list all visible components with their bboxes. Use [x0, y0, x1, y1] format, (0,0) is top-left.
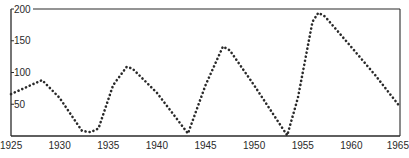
x-tick-label: 1930 [49, 140, 72, 151]
y-axis-ticks: 50100150200 [11, 4, 31, 110]
x-tick-label: 1960 [340, 140, 363, 151]
x-axis-ticks: 192519301935194019451950195519601965 [0, 140, 409, 151]
x-tick-label: 1935 [97, 140, 120, 151]
x-tick-label: 1955 [292, 140, 315, 151]
x-tick-label: 1965 [387, 140, 409, 151]
dotted-data-line [11, 13, 400, 136]
y-tick-label: 200 [14, 4, 31, 15]
y-tick-label: 150 [14, 35, 31, 46]
x-tick-label: 1940 [146, 140, 169, 151]
y-tick-label: 100 [14, 67, 31, 78]
x-tick-label: 1925 [0, 140, 23, 151]
y-tick-label: 50 [14, 99, 26, 110]
x-tick-label: 1950 [243, 140, 266, 151]
plot-frame [11, 9, 400, 136]
x-tick-label: 1945 [194, 140, 217, 151]
data-series [11, 13, 400, 136]
line-chart: 50100150200 1925193019351940194519501955… [0, 0, 409, 158]
